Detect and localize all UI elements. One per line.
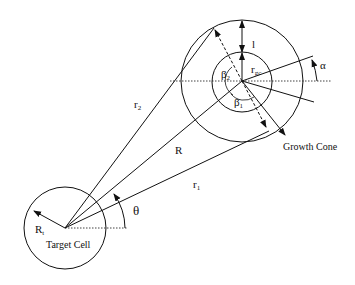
Rt-label: Rt xyxy=(35,223,44,237)
R-label: R xyxy=(175,144,182,156)
target-cell-label: Target Cell xyxy=(46,239,90,250)
alpha-label: α xyxy=(320,59,326,71)
beta1-label: β1 xyxy=(234,96,243,110)
r2-line xyxy=(65,28,214,228)
r1-line xyxy=(65,131,269,228)
l-label: l xyxy=(252,38,255,50)
beta2-label: β2 xyxy=(221,68,230,82)
rgc-label: rgc xyxy=(251,63,261,77)
theta-label: θ xyxy=(133,203,139,219)
R-line xyxy=(65,81,242,228)
growth-cone-label: Growth Cone xyxy=(283,141,337,152)
r1-label: r1 xyxy=(193,178,200,192)
r2-label: r2 xyxy=(134,98,141,112)
